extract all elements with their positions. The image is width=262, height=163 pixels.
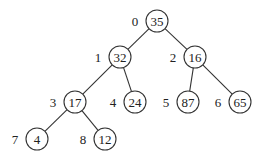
tree-edge-2-5 bbox=[190, 68, 194, 91]
tree-node-1: 321 bbox=[95, 46, 131, 68]
node-value: 65 bbox=[234, 95, 247, 110]
tree-node-4: 244 bbox=[110, 91, 146, 113]
tree-node-5: 875 bbox=[163, 91, 199, 113]
tree-edge-3-7 bbox=[45, 110, 67, 132]
node-index-label: 0 bbox=[132, 14, 139, 29]
node-value: 17 bbox=[69, 95, 83, 110]
node-value: 12 bbox=[99, 132, 112, 147]
node-index-label: 3 bbox=[50, 95, 57, 110]
node-value: 24 bbox=[129, 95, 143, 110]
node-value: 16 bbox=[189, 50, 203, 65]
node-index-label: 7 bbox=[12, 132, 19, 147]
tree-edge-1-4 bbox=[123, 67, 131, 91]
tree-node-3: 173 bbox=[50, 91, 86, 113]
node-value: 35 bbox=[151, 14, 164, 29]
node-index-label: 1 bbox=[95, 50, 102, 65]
tree-edge-0-1 bbox=[128, 29, 149, 50]
node-value: 87 bbox=[182, 95, 196, 110]
tree-node-7: 47 bbox=[12, 128, 48, 150]
tree-edge-1-3 bbox=[83, 65, 112, 94]
tree-edge-2-6 bbox=[203, 65, 232, 94]
tree-node-8: 128 bbox=[80, 128, 116, 150]
node-index-label: 8 bbox=[80, 132, 87, 147]
heap-tree-diagram: 35032116217324487565647128 bbox=[0, 0, 262, 163]
tree-edge-3-8 bbox=[82, 111, 98, 131]
node-value: 4 bbox=[34, 132, 41, 147]
tree-node-0: 350 bbox=[132, 10, 168, 32]
tree-node-6: 656 bbox=[215, 91, 251, 113]
node-value: 32 bbox=[114, 50, 127, 65]
node-index-label: 4 bbox=[110, 95, 117, 110]
tree-edge-0-2 bbox=[165, 29, 187, 50]
tree-edges bbox=[45, 29, 232, 132]
node-index-label: 6 bbox=[215, 95, 222, 110]
node-index-label: 2 bbox=[170, 50, 177, 65]
node-index-label: 5 bbox=[163, 95, 170, 110]
tree-node-2: 162 bbox=[170, 46, 206, 68]
